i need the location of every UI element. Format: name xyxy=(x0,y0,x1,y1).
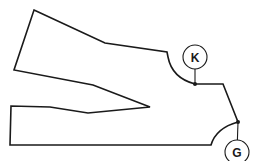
g-label-text: G xyxy=(232,146,241,160)
k-label-text: K xyxy=(191,51,200,65)
label-k-marker: K xyxy=(183,45,207,86)
pattern-outline xyxy=(10,10,238,145)
k-point-dot xyxy=(193,82,197,86)
g-point-dot xyxy=(236,120,240,124)
diagram-canvas: K G xyxy=(0,0,254,161)
